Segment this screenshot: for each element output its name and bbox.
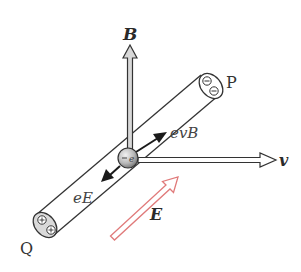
label-p: P: [226, 73, 237, 92]
end-q-cap: [28, 208, 61, 242]
velocity-arrow: [138, 153, 276, 167]
label-v: v: [279, 151, 289, 170]
electric-field-arrow: [111, 177, 179, 240]
rod-upper-edge: [36, 75, 201, 215]
label-evb: evB: [170, 124, 198, 142]
label-ee: eE: [73, 189, 93, 207]
electric-force-arrow: [101, 166, 120, 182]
end-p-cap: [194, 69, 227, 103]
electron-sphere: e: [118, 148, 138, 168]
lorentz-force-arrow: [136, 132, 167, 152]
magnetic-field-arrow: [123, 45, 137, 152]
label-e-field: E: [149, 205, 163, 224]
electron-charge-label: e: [129, 154, 134, 164]
label-q: Q: [20, 239, 33, 258]
label-b: B: [122, 24, 137, 44]
physics-diagram: e B v E evB eE P Q: [0, 0, 301, 272]
